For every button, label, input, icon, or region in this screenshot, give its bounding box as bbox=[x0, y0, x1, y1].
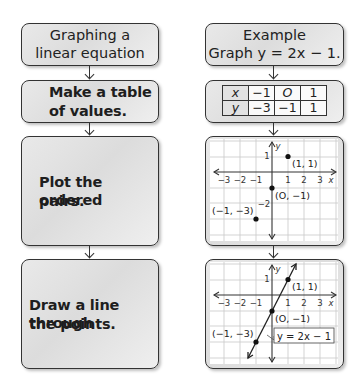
step-box-title: Graphing a linear equation bbox=[21, 23, 159, 66]
step-title-line-2: linear equation bbox=[22, 44, 158, 63]
step-box-plot-pairs: Plot the ordered pairs. bbox=[21, 136, 159, 246]
x-tick-label: 1 bbox=[286, 298, 291, 308]
y-axis-label: y bbox=[275, 264, 282, 274]
table-row-x: x −1 O 1 bbox=[223, 86, 327, 101]
arrow-down-icon bbox=[85, 126, 95, 136]
arrow-down-icon bbox=[85, 70, 95, 80]
x-tick-label: −2 bbox=[234, 298, 247, 308]
y-axis-label: y bbox=[275, 141, 282, 151]
line-equation-label: y = 2x − 1 bbox=[277, 331, 331, 342]
point-neg1-neg3 bbox=[254, 217, 259, 222]
x-tick-label: 2 bbox=[302, 175, 307, 185]
values-table: x −1 O 1 y −3 −1 1 bbox=[222, 85, 327, 116]
point-1-1 bbox=[286, 277, 291, 282]
point-label: (1, 1) bbox=[292, 281, 318, 292]
step-make-table-line-2: of values. bbox=[49, 102, 127, 120]
table-header-y: y bbox=[223, 101, 249, 116]
y-tick-label: −2 bbox=[258, 199, 271, 209]
point-label: (O, −1) bbox=[275, 313, 310, 324]
point-1-1 bbox=[286, 154, 291, 159]
x-axis-label: x bbox=[328, 298, 335, 308]
example-equation: Graph y = 2x − 1. bbox=[206, 44, 343, 63]
table-cell: −3 bbox=[249, 101, 275, 116]
arrow-down-icon bbox=[85, 249, 95, 259]
x-tick-label: −3 bbox=[218, 175, 231, 185]
step-title-line-1: Graphing a bbox=[22, 26, 158, 45]
equation-callout: y = 2x − 1 bbox=[267, 328, 334, 343]
graph-box-line: −3 −2 −1 1 2 3 x 1 y (1, 1) (O, −1) (−1,… bbox=[205, 259, 344, 369]
step-box-make-table: Make a table of values. bbox=[21, 80, 159, 123]
point-neg1-neg3 bbox=[254, 340, 259, 345]
x-tick-label: 3 bbox=[318, 298, 323, 308]
x-tick-label: −2 bbox=[234, 175, 247, 185]
point-0-neg1 bbox=[270, 186, 275, 191]
x-tick-label: 2 bbox=[302, 298, 307, 308]
coordinate-plane-line: −3 −2 −1 1 2 3 x 1 y (1, 1) (O, −1) (−1,… bbox=[204, 258, 343, 368]
table-cell: −1 bbox=[249, 86, 275, 101]
example-title-box: Example Graph y = 2x − 1. bbox=[205, 23, 344, 66]
arrow-down-icon bbox=[269, 126, 279, 136]
table-header-x: x bbox=[223, 86, 249, 101]
table-cell: 1 bbox=[301, 101, 327, 116]
point-label: (O, −1) bbox=[275, 190, 310, 201]
coordinate-plane-points: −3 −2 −1 1 2 3 x 1 −2 y (1, 1) (O, −1) (… bbox=[204, 135, 343, 245]
x-tick-label: −1 bbox=[250, 298, 263, 308]
point-label: (−1, −3) bbox=[212, 328, 253, 339]
step-plot-line-2: pairs. bbox=[39, 192, 84, 210]
x-axis-label: x bbox=[328, 175, 335, 185]
step-box-draw-line: Draw a line through the points. bbox=[21, 259, 159, 369]
table-row-y: y −3 −1 1 bbox=[223, 101, 327, 116]
table-cell: O bbox=[275, 86, 301, 101]
x-tick-label: 1 bbox=[286, 175, 291, 185]
x-tick-label: −3 bbox=[218, 298, 231, 308]
point-label: (1, 1) bbox=[292, 158, 318, 169]
y-tick-label: 1 bbox=[265, 151, 270, 161]
point-0-neg1 bbox=[270, 309, 275, 314]
table-box: x −1 O 1 y −3 −1 1 bbox=[205, 80, 344, 123]
example-title: Example bbox=[206, 26, 343, 45]
x-tick-label: 3 bbox=[318, 175, 323, 185]
y-tick-label: 1 bbox=[265, 274, 270, 284]
table-cell: 1 bbox=[301, 86, 327, 101]
arrow-down-icon bbox=[269, 249, 279, 259]
table-cell: −1 bbox=[275, 101, 301, 116]
step-draw-line-2: the points. bbox=[29, 315, 116, 333]
point-label: (−1, −3) bbox=[212, 205, 253, 216]
x-tick-label: −1 bbox=[250, 175, 263, 185]
graph-box-points: −3 −2 −1 1 2 3 x 1 −2 y (1, 1) (O, −1) (… bbox=[205, 136, 344, 246]
arrow-down-icon bbox=[269, 70, 279, 80]
step-make-table-line-1: Make a table bbox=[49, 83, 152, 101]
